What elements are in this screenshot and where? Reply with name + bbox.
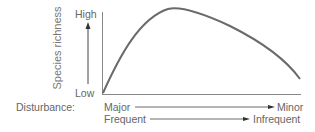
scale-major-label: Major	[104, 101, 130, 113]
scale-frequent-label: Frequent	[104, 113, 146, 125]
scale-minor-label: Minor	[277, 101, 303, 113]
x-axis-title: Disturbance:	[16, 101, 75, 113]
scale-infrequent-label: Infrequent	[253, 113, 300, 125]
species-richness-curve	[103, 8, 300, 93]
frequent-infrequent-arrow-icon	[150, 117, 250, 121]
major-minor-arrow-icon	[135, 105, 275, 109]
y-arrow-icon	[86, 22, 91, 84]
